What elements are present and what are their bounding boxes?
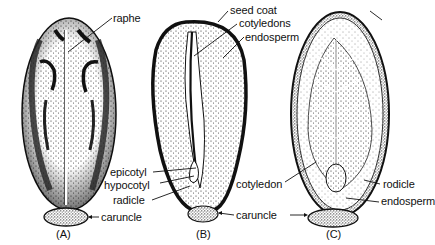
label-hypocotyl: hypocotyl — [104, 179, 150, 191]
label-cotyledon: cotyledon — [236, 178, 282, 190]
seed-c-flat-section — [285, 11, 389, 227]
label-epicotyl: epicotyl — [110, 166, 147, 178]
caption-a: (A) — [56, 228, 71, 240]
label-radicle-c: rodicle — [383, 178, 415, 190]
label-radicle-b: radicle — [113, 194, 145, 206]
label-seed-coat: seed coat — [230, 4, 277, 16]
seed-a-external-view — [22, 18, 116, 226]
seed-b-longitudinal-section — [152, 11, 246, 222]
label-raphe: raphe — [113, 12, 141, 24]
label-cotyledons: cotyledons — [239, 17, 291, 29]
label-caruncle-b: caruncle — [236, 209, 277, 221]
caption-b: (B) — [196, 228, 211, 240]
caption-c: (C) — [326, 228, 341, 240]
label-endosperm-b: endosperm — [245, 31, 299, 43]
label-endosperm-c: endosperm — [381, 195, 435, 207]
label-caruncle-a: caruncle — [101, 211, 142, 223]
